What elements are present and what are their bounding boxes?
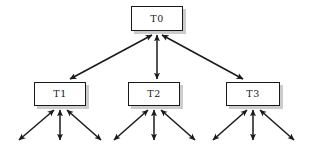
- edge-t0-t3: [162, 35, 243, 79]
- leaf-arrows-t3: [213, 110, 294, 140]
- node-t1[interactable]: T1: [34, 82, 86, 106]
- edge-t0-t1: [70, 35, 152, 79]
- node-label-t0: T0: [150, 14, 164, 24]
- node-t3[interactable]: T3: [226, 82, 280, 106]
- leaf-arrow-t1-left: [19, 110, 54, 140]
- node-label-t1: T1: [53, 89, 67, 99]
- node-label-t3: T3: [246, 89, 260, 99]
- leaf-arrow-t3-left: [213, 110, 247, 140]
- leaf-arrow-t1-right: [67, 110, 101, 140]
- figure-canvas: T0 T1 T2 T3: [0, 0, 309, 154]
- leaf-arrows-t2: [114, 110, 195, 140]
- node-t2[interactable]: T2: [128, 82, 180, 106]
- root-to-children-edges: [70, 35, 243, 79]
- leaf-arrow-t2-left: [114, 110, 148, 140]
- leaf-arrows-t1: [19, 110, 101, 140]
- leaf-arrow-t2-right: [161, 110, 195, 140]
- node-label-t2: T2: [147, 89, 161, 99]
- leaf-arrow-t3-right: [260, 110, 294, 140]
- node-t0[interactable]: T0: [131, 6, 183, 31]
